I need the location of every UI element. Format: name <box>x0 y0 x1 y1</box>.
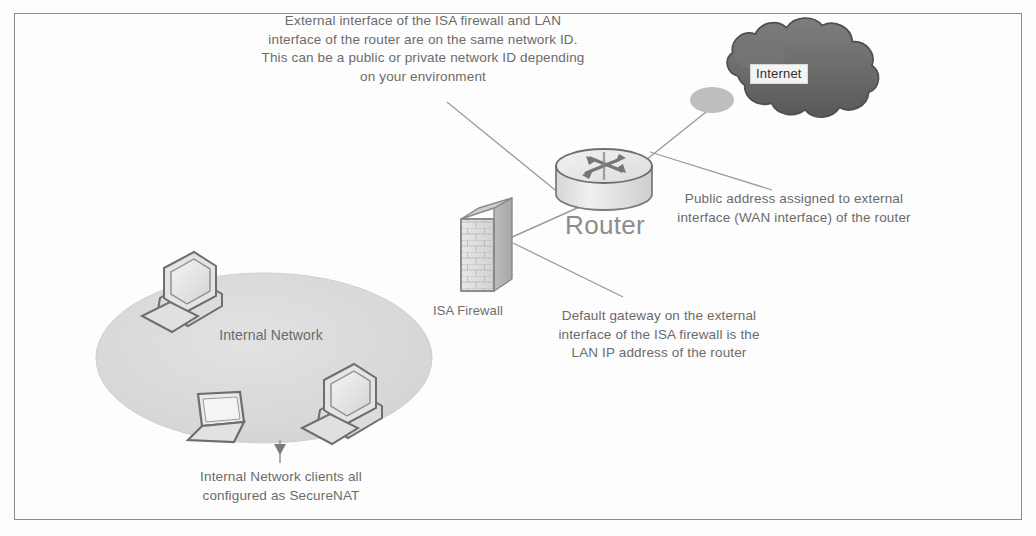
note-top-network-id: External interface of the ISA firewall a… <box>258 12 588 86</box>
isa-firewall-label: ISA Firewall <box>408 303 528 318</box>
note-public-address: Public address assigned to external inte… <box>668 190 920 227</box>
leader-line-right-note <box>650 152 772 190</box>
leader-line-top-note <box>447 102 560 194</box>
note-default-gateway: Default gateway on the external interfac… <box>556 307 762 363</box>
note-securenat-clients: Internal Network clients all configured … <box>168 468 394 505</box>
internal-network-label: Internal Network <box>196 327 346 343</box>
leader-line-bottom-note <box>274 440 286 463</box>
router-icon <box>556 149 652 210</box>
connector-router-to-internet <box>646 112 706 160</box>
brick-wall-icon <box>461 198 512 291</box>
network-diagram: External interface of the ISA firewall a… <box>0 0 1036 536</box>
leader-line-center-note <box>513 243 623 297</box>
internet-label: Internet <box>750 64 808 84</box>
router-label: Router <box>545 210 665 241</box>
